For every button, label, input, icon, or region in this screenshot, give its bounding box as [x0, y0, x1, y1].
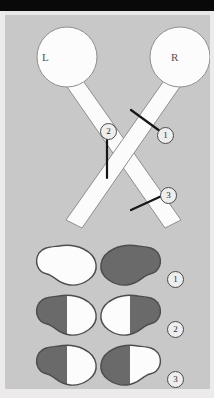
field-row-2-right-eye — [101, 295, 161, 335]
bottom-page-margin — [0, 389, 214, 398]
right-eye-globe — [150, 27, 210, 87]
field-row-callout-1[interactable]: 1 — [167, 271, 184, 288]
visual-field-row-1 — [37, 245, 161, 285]
lesion-callout-1[interactable]: 1 — [157, 127, 174, 144]
lesion-callout-2[interactable]: 2 — [100, 123, 117, 140]
top-black-band — [0, 0, 214, 11]
lesion-callout-3[interactable]: 3 — [160, 187, 177, 204]
field-row-callout-2[interactable]: 2 — [167, 321, 184, 338]
field-row-1-right-eye — [101, 245, 161, 285]
field-row-3-left-eye — [37, 345, 97, 385]
bean-outline — [101, 245, 161, 285]
top-page-margin — [0, 11, 214, 15]
visual-field-chart — [37, 245, 161, 385]
field-row-3-right-eye — [101, 345, 161, 385]
left-page-margin — [0, 11, 5, 398]
right-eye-label: R — [171, 51, 179, 63]
optic-pathway-group — [37, 27, 210, 228]
field-row-1-left-eye — [37, 245, 97, 285]
visual-field-row-3 — [37, 345, 161, 385]
visual-field-row-2 — [37, 295, 161, 335]
illustration-plate: L R 1 2 3 1 2 3 — [5, 15, 210, 389]
left-eye-label: L — [42, 51, 49, 63]
bean-outline — [37, 245, 97, 285]
field-row-2-left-eye — [37, 295, 97, 335]
field-row-callout-3[interactable]: 3 — [167, 371, 184, 388]
right-page-margin — [210, 11, 214, 398]
figure-panel: L R 1 2 3 1 2 3 — [0, 0, 214, 398]
